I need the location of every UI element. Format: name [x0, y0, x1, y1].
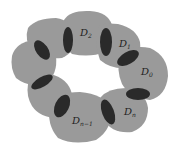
overlap-d2-d1 — [100, 28, 112, 56]
overlap-d0-dn — [126, 88, 150, 100]
overlap-d2-left — [63, 27, 73, 53]
ring-diagram: D2 D1 D0 Dn Dn−1 — [0, 0, 179, 151]
